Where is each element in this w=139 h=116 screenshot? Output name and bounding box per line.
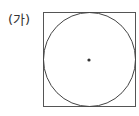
inscribed-circle-diagram	[0, 0, 139, 116]
center-point	[87, 58, 90, 61]
